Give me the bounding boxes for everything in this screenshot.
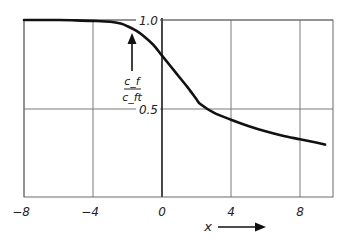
grid: [24, 20, 333, 197]
x-arrowhead-icon: [255, 223, 266, 232]
x-label-text: x: [203, 219, 212, 234]
x-tick-label: 4: [227, 205, 235, 219]
x-axis-label: x: [203, 219, 266, 234]
x-tick-label: −8: [12, 205, 30, 219]
x-tick-label: −4: [81, 205, 99, 219]
x-tick-label: 8: [296, 205, 304, 219]
y-label-numerator: c_f: [124, 75, 142, 88]
y-label-denominator: c_ft: [122, 91, 142, 104]
chart: 0.51.0 −8−4048 c_f c_ft x: [0, 0, 350, 242]
y-arrowhead-icon: [128, 33, 137, 44]
data-series-cf-ratio: [24, 20, 325, 145]
y-axis-label: c_f c_ft: [122, 33, 142, 104]
x-tick-label: 0: [158, 205, 166, 219]
x-tick-labels: −8−4048: [12, 205, 304, 219]
y-tick-label: 1.0: [139, 14, 158, 28]
y-tick-label: 0.5: [139, 103, 158, 117]
